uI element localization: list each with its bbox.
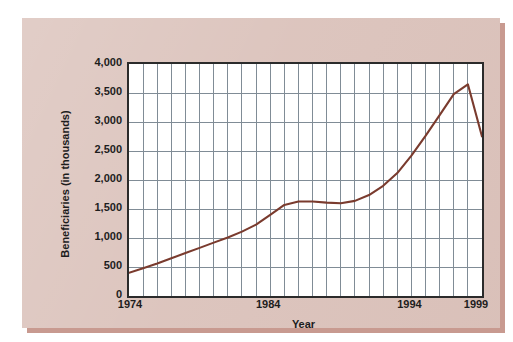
x-tick-label: 1974: [118, 299, 142, 310]
x-tick-label: 1984: [256, 299, 280, 310]
y-tick-label: 3,500: [94, 86, 122, 97]
chart-card: Beneficiaries (in thousands) 4,000 3,500…: [22, 18, 500, 328]
y-axis-tick-labels: 4,000 3,500 3,000 2,500 2,000 1,500 1,00…: [58, 62, 122, 294]
plot-area: [127, 62, 484, 298]
y-tick-label: 3,000: [94, 115, 122, 126]
x-axis-tick-labels: 1974 1984 1994 1999: [127, 299, 480, 315]
x-tick-label: 1999: [464, 299, 488, 310]
y-tick-label: 2,000: [94, 173, 122, 184]
y-tick-label: 2,500: [94, 144, 122, 155]
y-tick-label: 1,500: [94, 202, 122, 213]
x-tick-label: 1994: [397, 299, 421, 310]
series-line-beneficiaries: [129, 64, 482, 296]
figure-root: Beneficiaries (in thousands) 4,000 3,500…: [0, 0, 513, 342]
x-axis-title: Year: [127, 318, 480, 330]
y-tick-label: 4,000: [94, 57, 122, 68]
y-tick-label: 500: [104, 260, 122, 271]
y-tick-label: 1,000: [94, 231, 122, 242]
